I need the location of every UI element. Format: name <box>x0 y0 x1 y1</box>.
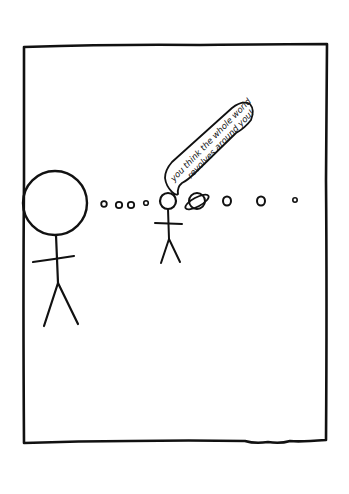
speech-line-1: you think the whole world <box>168 96 254 184</box>
big-figure-head <box>23 171 87 235</box>
big-figure-legs <box>44 283 78 326</box>
planet-7 <box>293 198 297 202</box>
planet-saturn <box>183 192 210 212</box>
comic-panel: you think the whole world revolves aroun… <box>0 0 349 494</box>
speech-bubble-text: you think the whole world revolves aroun… <box>168 94 262 191</box>
big-stick-figure <box>23 171 87 326</box>
planet-3 <box>128 202 134 208</box>
small-figure-arms <box>155 223 182 224</box>
speech-bubble: you think the whole world revolves aroun… <box>165 94 262 194</box>
panel-border <box>24 44 328 443</box>
planet-6 <box>257 196 265 205</box>
planets-right <box>223 196 297 205</box>
big-figure-arms <box>33 256 74 262</box>
planet-2 <box>116 202 122 208</box>
planets-left <box>101 201 148 209</box>
small-figure-legs <box>161 239 180 263</box>
small-stick-figure <box>155 193 182 263</box>
small-figure-head <box>160 193 176 209</box>
planet-5 <box>223 196 231 205</box>
planet-4 <box>144 201 149 206</box>
planet-1 <box>101 201 107 207</box>
